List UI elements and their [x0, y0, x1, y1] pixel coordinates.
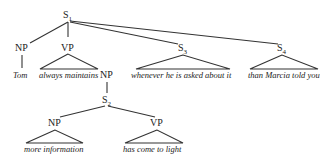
triangle-vp-light [125, 130, 183, 143]
leaf-more-information: more information [24, 144, 83, 154]
triangle-s4 [250, 55, 318, 69]
node-s1: S1 [63, 9, 73, 23]
node-np-object: NP [100, 69, 113, 80]
node-np-tom: NP [15, 42, 28, 53]
triangle-s3 [136, 55, 230, 69]
node-s4: S4 [277, 42, 287, 56]
leaf-than-marcia: than Marcia told you [248, 70, 320, 80]
edge-s1-s4 [70, 21, 278, 44]
edge-s1-np [30, 22, 68, 43]
node-vp: VP [61, 42, 74, 53]
node-vp-light: VP [150, 117, 163, 128]
node-s3: S3 [178, 42, 188, 56]
leaf-whenever: whenever he is asked about it [131, 70, 232, 80]
triangle-np-info [26, 130, 83, 143]
node-np-info: NP [48, 117, 61, 128]
edge-s2-vp [108, 106, 155, 117]
leaf-always-maintains: always maintains [39, 70, 99, 80]
leaf-tom: Tom [13, 70, 27, 80]
leaf-has-come-to-light: has come to light [123, 144, 182, 154]
edge-s2-np [60, 106, 105, 117]
syntax-tree-diagram: S1 NP VP S3 S4 NP S2 NP VP Tom always ma… [0, 0, 328, 160]
edge-s1-s3 [70, 22, 178, 44]
triangle-vp [40, 54, 98, 69]
